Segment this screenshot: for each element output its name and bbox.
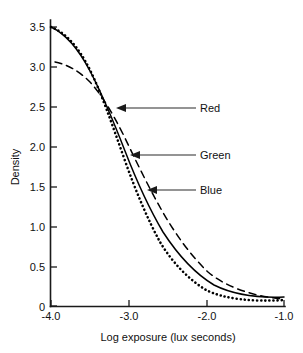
curve-blue-solid bbox=[51, 27, 284, 297]
series-label-blue: Blue bbox=[200, 184, 222, 196]
y-tick-label-3-0: 3.0 bbox=[30, 61, 45, 73]
curve-red-dashed bbox=[55, 62, 284, 299]
y-tick-label-1-5: 1.5 bbox=[30, 181, 45, 193]
y-axis-tick-marks bbox=[51, 27, 58, 306]
curve-green-dotted bbox=[51, 27, 284, 301]
density-log-exposure-chart: 3.5 3.0 2.5 2.0 1.5 1.0 0.5 0 -4.0 bbox=[0, 0, 303, 353]
annotation-red: Red bbox=[116, 102, 220, 114]
series-label-green: Green bbox=[200, 149, 231, 161]
x-axis-title: Log exposure (lux seconds) bbox=[100, 331, 235, 343]
annotation-green: Green bbox=[130, 149, 231, 161]
y-axis-title: Density bbox=[9, 148, 21, 185]
y-tick-label-0-5: 0.5 bbox=[30, 261, 45, 273]
y-tick-label-1-0: 1.0 bbox=[30, 221, 45, 233]
series-label-red: Red bbox=[200, 102, 220, 114]
x-tick-label-minus-4: -4.0 bbox=[42, 310, 61, 322]
annotation-blue: Blue bbox=[147, 184, 222, 196]
arrowhead-red-icon bbox=[116, 104, 126, 112]
x-tick-label-minus-1: -1.0 bbox=[275, 310, 294, 322]
x-tick-label-minus-3: -3.0 bbox=[120, 310, 139, 322]
chart-figure: 3.5 3.0 2.5 2.0 1.5 1.0 0.5 0 -4.0 bbox=[0, 0, 303, 353]
y-tick-label-3-5: 3.5 bbox=[30, 21, 45, 33]
y-tick-label-2-0: 2.0 bbox=[30, 141, 45, 153]
x-tick-label-minus-2: -2.0 bbox=[198, 310, 217, 322]
y-tick-label-2-5: 2.5 bbox=[30, 101, 45, 113]
